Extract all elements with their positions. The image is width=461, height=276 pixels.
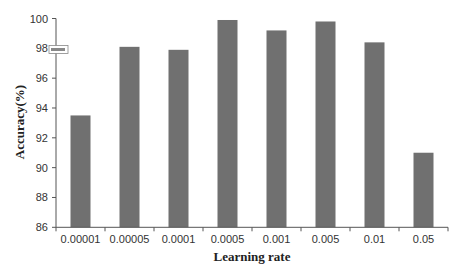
x-tick-label: 0.0001 <box>162 233 196 245</box>
x-tick-label: 0.00001 <box>61 233 101 245</box>
y-axis-title: Accuracy(%) <box>12 85 27 159</box>
y-tick-label: 96 <box>36 72 48 84</box>
bar-chart: 86889092949698100 0.000010.000050.00010.… <box>0 0 461 276</box>
x-tick-label: 0.01 <box>364 233 385 245</box>
y-tick-label: 88 <box>36 191 48 203</box>
x-axis-title: Learning rate <box>214 249 291 264</box>
bar-0.0001 <box>169 50 189 227</box>
bar-0.005 <box>316 21 336 227</box>
x-axis-ticks: 0.000010.000050.00010.00050.0010.0050.01… <box>56 227 448 245</box>
bar-0.01 <box>365 42 385 227</box>
y-tick-label: 98 <box>36 42 48 54</box>
x-tick-label: 0.005 <box>312 233 340 245</box>
x-tick-label: 0.0005 <box>211 233 245 245</box>
bars <box>71 20 434 227</box>
y-tick-label: 86 <box>36 221 48 233</box>
bar-0.00005 <box>120 47 140 227</box>
y-tick-label: 90 <box>36 162 48 174</box>
bar-0.001 <box>267 30 287 227</box>
y-tick-label: 100 <box>30 13 48 25</box>
bar-0.00001 <box>71 115 91 227</box>
x-tick-label: 0.05 <box>413 233 434 245</box>
x-tick-label: 0.00005 <box>110 233 150 245</box>
bar-0.05 <box>414 153 434 228</box>
y-tick-label: 92 <box>36 132 48 144</box>
y-tick-label: 94 <box>36 102 48 114</box>
x-tick-label: 0.001 <box>263 233 291 245</box>
bar-0.0005 <box>218 20 238 227</box>
legend-artifact <box>49 46 68 54</box>
